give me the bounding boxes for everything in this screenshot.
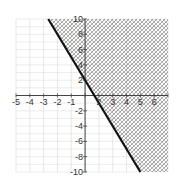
y-tick-label: -10 bbox=[70, 167, 83, 177]
y-tick-label: 2 bbox=[78, 75, 83, 85]
y-tick-label: 4 bbox=[78, 60, 83, 70]
x-tick-label: 2 bbox=[96, 97, 101, 107]
y-tick-label: 10 bbox=[73, 14, 83, 24]
y-tick-label: -4 bbox=[75, 121, 83, 131]
inequality-graph: -5-4-3-2-123456108642-2-4-6-8-10 bbox=[0, 0, 177, 185]
x-tick-label: 3 bbox=[110, 97, 115, 107]
x-tick-label: -5 bbox=[12, 97, 20, 107]
x-tick-label: 5 bbox=[138, 97, 143, 107]
x-tick-label: -4 bbox=[26, 97, 34, 107]
y-tick-label: -8 bbox=[75, 152, 83, 162]
y-tick-label: 6 bbox=[78, 45, 83, 55]
x-tick-label: -2 bbox=[53, 97, 61, 107]
x-tick-label: -3 bbox=[40, 97, 48, 107]
y-tick-label: -6 bbox=[75, 136, 83, 146]
x-tick-label: 4 bbox=[124, 97, 129, 107]
y-tick-label: -2 bbox=[75, 106, 83, 116]
x-tick-label: 6 bbox=[152, 97, 157, 107]
y-tick-label: 8 bbox=[78, 29, 83, 39]
